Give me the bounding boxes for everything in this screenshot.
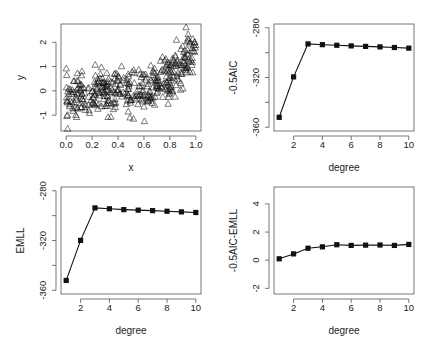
x-tick-label: 8 [164, 302, 169, 313]
square-marker [277, 256, 282, 261]
square-marker [305, 41, 310, 46]
scatter-panel-y-vs-x: x y 0.00.20.40.60.81.0-1012 [15, 24, 202, 173]
square-marker [305, 246, 310, 251]
square-marker [136, 208, 141, 213]
y-tick-label: -280 [250, 18, 261, 37]
square-marker [392, 243, 397, 248]
x-tick-label: 2 [78, 302, 83, 313]
y-tick-label: 1 [37, 64, 48, 69]
emll-panel: degree EMLL 246810-360-320-280 [15, 181, 201, 336]
y-tick-label: 0 [250, 258, 261, 263]
square-marker [64, 278, 69, 283]
square-marker [193, 210, 198, 215]
x-tick-label: 0.8 [163, 139, 176, 150]
y-tick-label: -360 [37, 281, 48, 300]
square-marker [349, 43, 354, 48]
y-tick-label: 2 [37, 40, 48, 45]
triangle-marker [64, 112, 70, 118]
diff-xlabel: degree [328, 325, 360, 336]
triangle-marker [64, 72, 70, 78]
square-marker [363, 44, 368, 49]
x-tick-label: 4 [320, 302, 325, 313]
square-marker [320, 244, 325, 249]
x-tick-label: 10 [404, 302, 415, 313]
scatter-xlabel: x [129, 162, 134, 173]
x-tick-label: 4 [320, 139, 325, 150]
y-tick-label: -1 [37, 111, 48, 119]
x-tick-label: 0.0 [60, 139, 73, 150]
square-marker [277, 115, 282, 120]
y-tick-label: -360 [250, 118, 261, 137]
y-tick-label: 0 [37, 88, 48, 93]
triangle-marker [64, 125, 70, 131]
x-tick-label: 10 [404, 139, 415, 150]
scatter-ylabel: y [15, 75, 26, 80]
triangle-marker [63, 65, 69, 71]
aic-xlabel: degree [328, 162, 360, 173]
aic-panel: degree -0.5AIC 246810-360-320-280 [228, 18, 414, 173]
y-tick-label: -320 [250, 68, 261, 87]
square-marker [78, 238, 83, 243]
square-marker [406, 242, 411, 247]
triangle-marker [183, 24, 189, 30]
triangle-marker [74, 70, 80, 76]
y-tick-label: -2 [250, 284, 261, 292]
x-tick-label: 2 [291, 302, 296, 313]
square-marker [150, 208, 155, 213]
square-marker [406, 46, 411, 51]
square-marker [92, 205, 97, 210]
triangle-marker [98, 64, 104, 70]
scatter-points [63, 24, 199, 131]
square-marker [121, 207, 126, 212]
x-tick-label: 0.2 [86, 139, 99, 150]
triangle-marker [140, 87, 146, 93]
x-tick-label: 6 [349, 302, 354, 313]
square-marker [363, 243, 368, 248]
x-tick-label: 2 [291, 139, 296, 150]
x-tick-label: 8 [377, 302, 382, 313]
emll-ylabel: EMLL [15, 227, 26, 254]
triangle-marker [104, 70, 110, 76]
y-tick-label: 4 [250, 201, 261, 206]
y-tick-label: 2 [250, 229, 261, 234]
series-line [66, 208, 196, 281]
x-tick-label: 1.0 [189, 139, 202, 150]
x-tick-label: 0.6 [137, 139, 150, 150]
plot-frame [274, 187, 414, 294]
square-marker [291, 251, 296, 256]
square-marker [320, 42, 325, 47]
x-tick-label: 8 [377, 139, 382, 150]
series-line [279, 44, 409, 117]
square-marker [334, 43, 339, 48]
triangle-marker [118, 63, 124, 69]
figure: x y 0.00.20.40.60.81.0-1012 degree -0.5A… [0, 0, 437, 349]
square-marker [377, 242, 382, 247]
square-marker [107, 206, 112, 211]
square-marker [334, 242, 339, 247]
x-tick-label: 0.4 [111, 139, 124, 150]
triangle-marker [141, 118, 147, 124]
square-marker [164, 209, 169, 214]
aic-ylabel: -0.5AIC [228, 61, 239, 95]
triangle-marker [173, 37, 179, 43]
triangle-marker [159, 54, 165, 60]
x-tick-label: 6 [349, 139, 354, 150]
square-marker [377, 44, 382, 49]
x-tick-label: 6 [136, 302, 141, 313]
square-marker [392, 45, 397, 50]
y-tick-label: -280 [37, 181, 48, 200]
emll-xlabel: degree [115, 325, 147, 336]
y-tick-label: -320 [37, 231, 48, 250]
triangle-marker [125, 108, 131, 114]
triangle-marker [165, 101, 171, 107]
series-line [279, 244, 409, 258]
triangle-marker [92, 61, 98, 67]
diff-ylabel: -0.5AIC-EMLL [228, 208, 239, 272]
triangle-marker [160, 94, 166, 100]
x-tick-label: 4 [107, 302, 112, 313]
square-marker [349, 243, 354, 248]
square-marker [179, 209, 184, 214]
square-marker [291, 74, 296, 79]
aic-minus-emll-panel: degree -0.5AIC-EMLL 246810-2024 [228, 187, 414, 336]
x-tick-label: 10 [191, 302, 202, 313]
